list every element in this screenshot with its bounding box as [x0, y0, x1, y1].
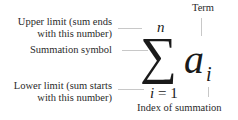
upper-limit-label-line2: with this number) [4, 28, 112, 40]
upper-limit-label-line1: Upper limit (sum ends [4, 16, 112, 28]
lower-limit-label-line1: Lower limit (sum starts [0, 80, 112, 92]
lower-limit-var: i [150, 85, 154, 101]
index-of-summation-label: Index of summation [137, 102, 222, 114]
summation-symbol-label: Summation symbol [4, 44, 112, 56]
upper-limit-connector [118, 28, 142, 29]
lower-limit-eq: = [158, 85, 166, 101]
sigma-symbol: ∑ [140, 30, 177, 82]
term-a: a [184, 40, 204, 80]
term-connector [201, 18, 202, 36]
index-connector [208, 87, 209, 97]
lower-limit-val: 1 [170, 85, 178, 101]
lower-limit-label: Lower limit (sum starts with this number… [0, 80, 112, 104]
term-label: Term [192, 2, 214, 14]
term-subscript-i: i [206, 64, 212, 84]
lower-limit: i = 1 [150, 86, 178, 101]
lower-limit-label-line2: with this number) [0, 92, 112, 104]
upper-limit-label: Upper limit (sum ends with this number) [4, 16, 112, 40]
lower-limit-connector [118, 89, 144, 90]
